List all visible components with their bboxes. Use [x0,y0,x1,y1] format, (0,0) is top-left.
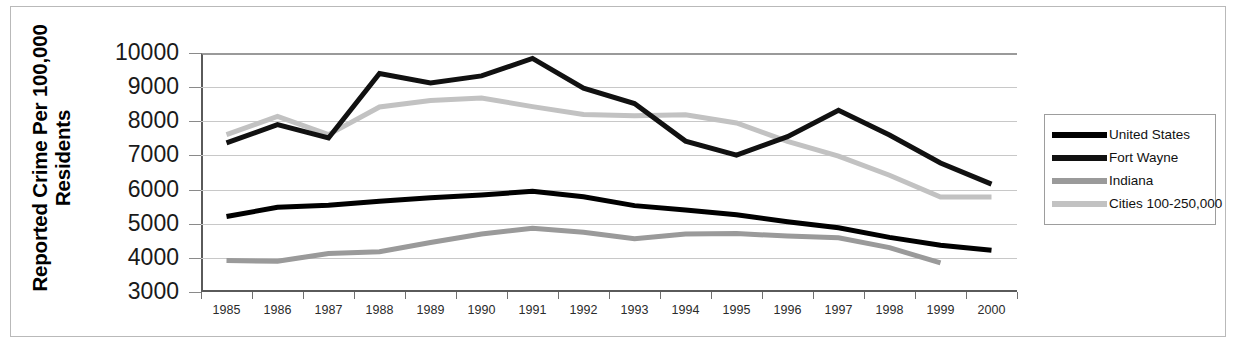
legend-item[interactable]: Cities 100-250,000 [1045,192,1215,215]
x-axis-tick-mark [303,292,304,299]
series-line [227,98,992,197]
legend-color-swatch [1052,201,1107,207]
x-axis-tick-mark [915,292,916,299]
legend-item-label: Cities 100-250,000 [1109,196,1222,211]
x-axis-tick-mark [252,292,253,299]
x-axis-tick-mark [711,292,712,299]
x-axis-tick-mark [864,292,865,299]
y-axis-tick-label: 8000 [59,109,179,132]
y-axis-tick-label: 6000 [59,178,179,201]
x-axis-tick-mark [405,292,406,299]
x-axis-tick-label: 2000 [962,303,1022,317]
legend-item-label: United States [1109,127,1190,142]
legend-item-label: Indiana [1109,173,1153,188]
x-axis-tick-mark [966,292,967,299]
x-axis-tick-mark [201,292,202,299]
x-axis-tick-mark [456,292,457,299]
legend-color-swatch [1052,178,1107,184]
legend-color-swatch [1052,155,1107,161]
y-axis-tick-label: 9000 [59,75,179,98]
y-axis-tick-label: 4000 [59,246,179,269]
series-line [227,191,992,250]
legend-color-swatch [1052,132,1107,138]
y-axis-tick-label: 10000 [59,41,179,64]
chart-legend: United StatesFort WayneIndianaCities 100… [1044,114,1216,225]
legend-item-label: Fort Wayne [1109,150,1178,165]
x-axis-tick-mark [507,292,508,299]
x-axis-tick-mark [354,292,355,299]
plot-area: 100009000800070006000500040003000 198519… [191,47,1017,292]
chart-figure: Reported Crime Per 100,000 Residents 100… [10,6,1226,337]
legend-item[interactable]: Indiana [1045,169,1215,192]
legend-item[interactable]: Fort Wayne [1045,146,1215,169]
y-axis-tick-mark [189,292,201,293]
series-layer [191,47,1017,292]
x-axis-tick-mark [609,292,610,299]
x-axis-tick-mark [1017,292,1018,299]
y-axis-tick-label: 7000 [59,143,179,166]
y-axis-tick-label: 5000 [59,212,179,235]
x-axis-tick-mark [813,292,814,299]
legend-item[interactable]: United States [1045,123,1215,146]
x-axis-tick-mark [558,292,559,299]
series-line [227,58,992,184]
series-line [227,228,941,263]
y-axis-tick-label: 3000 [59,280,179,303]
x-axis-tick-mark [660,292,661,299]
x-axis-tick-mark [762,292,763,299]
